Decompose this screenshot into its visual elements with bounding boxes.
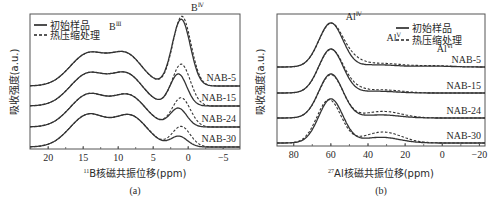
- sample-label: NAB-5: [207, 72, 236, 83]
- y-axis-label: 吸收强度(a.u.): [8, 49, 20, 116]
- peak-annotation: AlⅤ: [387, 32, 402, 43]
- peak-annotation: AlⅣ: [346, 11, 363, 22]
- legend-dashed-label: 热压缩处理: [412, 34, 462, 46]
- tick-label: 10: [113, 152, 123, 163]
- sample-label: NAB-15: [202, 92, 236, 103]
- tick-label: 40: [363, 149, 373, 160]
- legend: 初始样品 热压缩处理: [34, 19, 100, 41]
- tick-label: 0: [186, 152, 191, 163]
- legend-solid-label: 初始样品: [412, 22, 452, 34]
- panel-caption: (b): [375, 185, 387, 197]
- legend-dashed-label: 热压缩处理: [50, 29, 100, 41]
- tick-label: 0: [440, 149, 445, 160]
- sample-labels: NAB-5NAB-15NAB-24NAB-30: [202, 72, 236, 144]
- tick-label: 15: [78, 152, 88, 163]
- sample-label: NAB-24: [447, 105, 481, 116]
- sample-label: NAB-30: [202, 133, 236, 144]
- panel-a-b11-nmr: 20151050−5 NAB-5NAB-15NAB-24NAB-30 BⅢBⅣ …: [8, 2, 240, 197]
- x-axis-label: 11B核磁共振位移(ppm): [84, 167, 187, 179]
- tick-label: 60: [326, 149, 336, 160]
- tick-label: −5: [218, 152, 229, 163]
- tick-label: 20: [43, 152, 53, 163]
- y-axis-label: 吸收强度(a.u.): [254, 49, 266, 116]
- x-axis-label: 27Al核磁共振位移(ppm): [328, 167, 434, 179]
- sample-label: NAB-15: [447, 80, 481, 91]
- peak-annotation: BⅢ: [109, 21, 122, 32]
- peak-annotation: BⅣ: [191, 2, 205, 13]
- sample-label: NAB-24: [202, 113, 236, 124]
- sample-label: NAB-5: [452, 54, 481, 65]
- tick-label: 5: [151, 152, 156, 163]
- sample-label: NAB-30: [447, 130, 481, 141]
- peak-annotations: BⅢBⅣ: [109, 2, 205, 32]
- figure: 20151050−5 NAB-5NAB-15NAB-24NAB-30 BⅢBⅣ …: [0, 0, 494, 202]
- panel-caption: (a): [129, 185, 140, 197]
- tick-label: 20: [400, 149, 410, 160]
- legend: 初始样品 热压缩处理: [396, 22, 462, 46]
- tick-label: −20: [472, 149, 488, 160]
- panel-b-al27-nmr: 806040200−20 NAB-5NAB-15NAB-24NAB-30 AlⅣ…: [254, 11, 487, 197]
- tick-label: 80: [289, 149, 299, 160]
